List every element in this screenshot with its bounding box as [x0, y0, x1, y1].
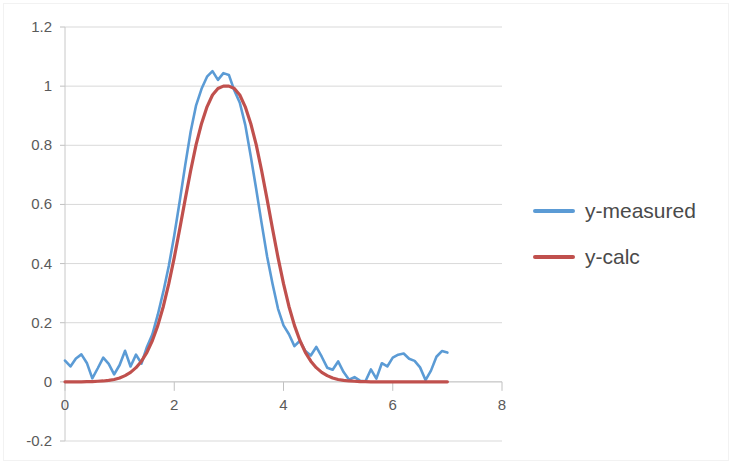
x-tick-label: 8	[498, 396, 506, 413]
legend-label-y-calc: y-calc	[585, 245, 640, 269]
y-tick-label: 1	[44, 77, 52, 94]
x-tick-labels-group: 02468	[61, 396, 506, 413]
y-tick-label: 0.8	[31, 136, 52, 153]
y-tick-label: 1.2	[31, 18, 52, 35]
chart-container: -0.200.20.40.60.811.2 02468 y-measured y…	[0, 0, 733, 465]
y-tick-label: -0.2	[26, 432, 52, 449]
legend-label-y-measured: y-measured	[585, 199, 696, 223]
y-tick-label: 0	[44, 373, 52, 390]
y-tick-labels-group: -0.200.20.40.60.811.2	[26, 18, 52, 449]
legend-swatch-y-calc	[533, 255, 575, 259]
series-group	[65, 71, 447, 382]
gridlines-group	[65, 27, 502, 441]
legend-swatch-y-measured	[533, 209, 575, 213]
axis-lines-group	[65, 27, 502, 441]
x-tick-label: 0	[61, 396, 69, 413]
y-tick-label: 0.6	[31, 195, 52, 212]
tickmarks-group	[60, 27, 502, 441]
series-line-y-measured	[65, 71, 447, 381]
x-tick-label: 6	[389, 396, 397, 413]
x-tick-label: 2	[170, 396, 178, 413]
chart-legend: y-measured y-calc	[533, 188, 728, 280]
series-line-y-calc	[65, 86, 447, 382]
y-tick-label: 0.2	[31, 314, 52, 331]
legend-item-y-measured[interactable]: y-measured	[533, 188, 728, 234]
x-tick-label: 4	[279, 396, 287, 413]
y-tick-label: 0.4	[31, 255, 52, 272]
legend-item-y-calc[interactable]: y-calc	[533, 234, 728, 280]
